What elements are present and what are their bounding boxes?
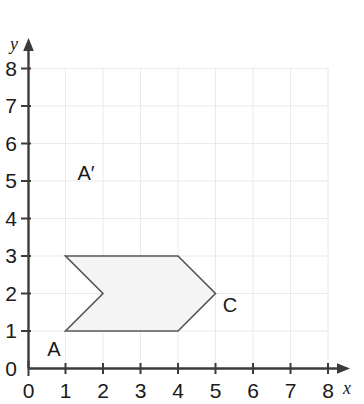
x-tick-label-8: 8 (322, 379, 334, 402)
x-tick-label-2: 2 (97, 379, 109, 402)
y-tick-label-1: 1 (5, 319, 17, 342)
x-axis-label: x (342, 378, 351, 398)
x-tick-label-5: 5 (210, 379, 222, 402)
y-tick-label-3: 3 (5, 244, 17, 267)
y-axis-tick-labels: 0 1 2 3 4 5 6 7 8 (5, 57, 17, 380)
y-tick-label-7: 7 (5, 94, 17, 117)
x-axis (29, 363, 351, 374)
x-tick-label-0: 0 (23, 379, 35, 402)
x-tick-label-3: 3 (135, 379, 147, 402)
y-tick-label-5: 5 (5, 169, 17, 192)
y-tick-label-4: 4 (5, 207, 17, 230)
x-tick-label-7: 7 (285, 379, 297, 402)
y-tick-label-0: 0 (5, 357, 17, 380)
label-a: A (47, 338, 61, 360)
y-axis (23, 38, 34, 369)
x-axis-arrowhead (337, 363, 350, 374)
y-tick-label-8: 8 (5, 57, 17, 80)
x-axis-tick-labels: 0 1 2 3 4 5 6 7 8 (23, 379, 334, 402)
y-tick-label-2: 2 (5, 282, 17, 305)
y-tick-label-6: 6 (5, 132, 17, 155)
coordinate-plane-figure: 0 1 2 3 4 5 6 7 8 0 1 2 3 4 5 6 7 8 y x … (0, 0, 364, 404)
x-tick-label-4: 4 (172, 379, 184, 402)
y-axis-arrowhead (23, 38, 34, 51)
coordinate-plot-svg: 0 1 2 3 4 5 6 7 8 0 1 2 3 4 5 6 7 8 y x … (0, 0, 364, 404)
x-tick-label-1: 1 (60, 379, 72, 402)
x-tick-label-6: 6 (247, 379, 259, 402)
y-axis-label: y (8, 34, 18, 54)
label-a-prime: A′ (77, 162, 94, 184)
label-c: C (223, 294, 237, 316)
